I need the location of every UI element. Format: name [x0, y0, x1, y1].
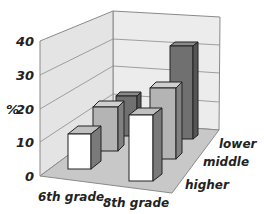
depth-label-lower: lower	[219, 137, 258, 151]
bar-6th-higher	[68, 126, 101, 169]
y-tick-0: 0	[25, 169, 34, 184]
y-tick-40: 40	[15, 34, 34, 49]
category-label-8th: 8th grade	[103, 196, 169, 210]
y-tick-30: 30	[16, 68, 34, 83]
depth-label-higher: higher	[185, 178, 230, 192]
depth-label-middle: middle	[203, 155, 249, 169]
bar-chart-3d: 40 30 20 % 10 0 6th grade 8th grade lowe…	[0, 0, 264, 214]
y-tick-10: 10	[16, 135, 34, 150]
y-axis-label: %	[6, 102, 19, 117]
bar-8th-higher	[129, 108, 162, 181]
category-label-6th: 6th grade	[38, 190, 104, 204]
